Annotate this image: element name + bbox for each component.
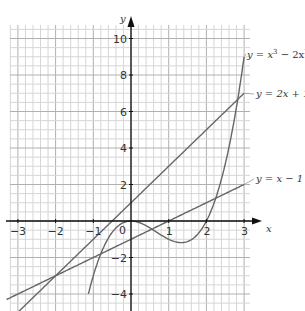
leader-2x-plus-1 xyxy=(244,93,254,94)
x-tick-label: −2 xyxy=(48,225,64,238)
origin-label: 0 xyxy=(119,224,126,237)
y-tick-label: 2 xyxy=(120,179,127,192)
chart-plot-area: x y 0 −3−2−1123−4−2246810 y = x3 − 2x2 y… xyxy=(0,0,305,311)
label-cubic: y = x3 − 2x2 xyxy=(246,48,305,60)
leader-x-minus-1 xyxy=(244,179,254,185)
x-axis-label: x xyxy=(266,223,272,234)
label-line-x-minus-1: y = x − 1 xyxy=(255,173,303,184)
x-axis-arrow-icon xyxy=(252,218,262,225)
x-tick-label: 2 xyxy=(203,225,210,238)
y-axis-arrow-icon xyxy=(128,16,135,27)
y-tick-label: −2 xyxy=(111,252,127,265)
x-tick-label: −1 xyxy=(85,225,101,238)
series-labels: y = x3 − 2x2 y = 2x + 1 y = x − 1 xyxy=(246,48,305,184)
label-line-2x-plus-1: y = 2x + 1 xyxy=(255,88,305,99)
line-x-minus-1 xyxy=(7,185,245,300)
y-tick-label: 6 xyxy=(120,106,127,119)
x-tick-label: 1 xyxy=(166,225,173,238)
curves xyxy=(7,54,254,311)
y-axis-label: y xyxy=(119,13,126,24)
y-tick-label: −4 xyxy=(111,288,127,301)
y-tick-label: 10 xyxy=(113,33,127,46)
x-tick-label: −3 xyxy=(10,225,26,238)
x-tick-label: 3 xyxy=(241,225,248,238)
y-tick-label: 4 xyxy=(120,142,127,155)
y-tick-label: 8 xyxy=(120,69,127,82)
grid xyxy=(10,25,250,311)
